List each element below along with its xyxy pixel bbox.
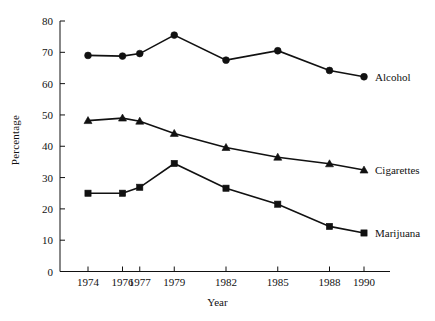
- caption-sliver: [30, 313, 330, 321]
- data-point-square: [361, 230, 367, 236]
- x-tick-label: 1985: [267, 276, 290, 288]
- y-tick-label: 20: [42, 203, 54, 215]
- data-point-square: [171, 160, 177, 166]
- series-line-alcohol: [88, 35, 364, 77]
- x-tick-label: 1979: [163, 276, 186, 288]
- y-tick-label: 0: [48, 266, 54, 278]
- data-point-square: [85, 190, 91, 196]
- y-tick-label: 80: [42, 15, 54, 27]
- plot-area: 01020304050607080 1974197619771979198219…: [0, 0, 435, 321]
- data-point-circle: [326, 67, 333, 74]
- series-label-cigarettes: Cigarettes: [375, 164, 420, 176]
- x-tick-label: 1990: [353, 276, 376, 288]
- y-tick-label: 50: [42, 109, 54, 121]
- y-tick-label: 30: [42, 172, 54, 184]
- data-point-circle: [85, 52, 92, 59]
- data-point-circle: [361, 73, 368, 80]
- data-point-square: [137, 184, 143, 190]
- data-point-circle: [274, 47, 281, 54]
- series-labels-group: AlcoholCigarettesMarijuana: [375, 71, 420, 239]
- x-tick-label: 1974: [77, 276, 100, 288]
- x-tick-label: 1977: [129, 276, 152, 288]
- data-point-square: [119, 190, 125, 196]
- x-axis-ticks: 19741976197719791982198519881990: [77, 267, 376, 288]
- series-line-marijuana: [88, 164, 364, 234]
- x-tick-label: 1982: [215, 276, 237, 288]
- data-point-circle: [223, 57, 230, 64]
- y-tick-label: 40: [42, 140, 54, 152]
- x-axis-title: Year: [0, 296, 435, 308]
- data-point-circle: [136, 50, 143, 57]
- data-point-square: [275, 201, 281, 207]
- series-label-alcohol: Alcohol: [375, 71, 410, 83]
- y-axis-ticks: 01020304050607080: [42, 15, 65, 278]
- x-tick-label: 1988: [319, 276, 342, 288]
- series-group: [84, 32, 368, 236]
- chart-container: Percentage 01020304050607080 19741976197…: [0, 0, 435, 321]
- series-label-marijuana: Marijuana: [375, 227, 420, 239]
- data-point-square: [326, 223, 332, 229]
- data-point-circle: [119, 53, 126, 60]
- y-tick-label: 60: [42, 78, 54, 90]
- y-tick-label: 10: [42, 234, 54, 246]
- data-point-square: [223, 185, 229, 191]
- y-tick-label: 70: [42, 46, 54, 58]
- data-point-circle: [171, 32, 178, 39]
